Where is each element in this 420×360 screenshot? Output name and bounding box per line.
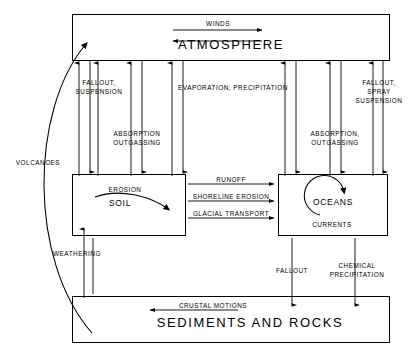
label-fallout-spray-line2: SPRAY <box>348 88 410 95</box>
label-fallout-spray-line3: SUSPENSION <box>348 97 410 104</box>
diagram-canvas: ATMOSPHERE SOIL OCEANS SEDIMENTS AND ROC… <box>0 0 420 360</box>
label-currents: CURRENTS <box>304 221 360 228</box>
label-absorption-right-line1: ABSORPTION, <box>303 130 367 137</box>
label-fallout-spray-line1: FALLOUT, <box>348 79 410 86</box>
currents-circle-arrow <box>304 175 344 215</box>
label-absorption-left-line1: ABSORPTION <box>105 130 169 137</box>
label-erosion: EROSION <box>98 186 152 193</box>
label-evaporation-precipitation: EVAPORATION, PRECIPITATION <box>168 84 298 91</box>
label-fallout-suspension-line1: FALLOUT, <box>70 79 128 86</box>
label-winds: WINDS <box>192 20 244 27</box>
label-fallout-suspension-line2: SUSPENSION <box>70 88 128 95</box>
box-label-sediments: SEDIMENTS AND ROCKS <box>150 316 350 331</box>
label-fallout: FALLOUT <box>265 267 319 274</box>
label-shoreline-erosion: SHORELINE EROSION <box>189 193 273 200</box>
label-volcanoes: VOLCANOES <box>8 159 68 166</box>
box-label-soil: SOIL <box>95 199 145 209</box>
label-crustal-motions: CRUSTAL MOTIONS <box>163 302 263 309</box>
box-label-oceans: OCEANS <box>305 198 361 208</box>
label-absorption-right-line2: OUTGASSING <box>303 139 367 146</box>
label-weathering: WEATHERING <box>44 250 110 257</box>
box-label-atmosphere: ATMOSPHERE <box>176 38 286 53</box>
label-glacial-transport: GLACIAL TRANSPORT <box>189 210 273 217</box>
label-absorption-left-line2: OUTGASSING <box>105 139 169 146</box>
label-chemical-precipitation-line1: CHEMICAL <box>322 262 392 269</box>
label-chemical-precipitation-line2: PRECIPITATION <box>322 271 392 278</box>
label-runoff: RUNOFF <box>205 176 257 183</box>
